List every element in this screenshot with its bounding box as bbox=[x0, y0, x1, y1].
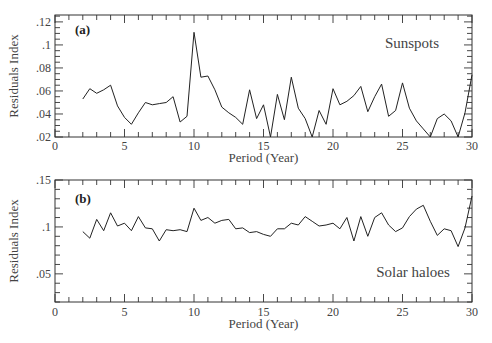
panel-a-xlabel: Period (Year) bbox=[229, 150, 299, 165]
panel-b-frame bbox=[55, 180, 472, 302]
panel-a-ytick-label: .02 bbox=[36, 130, 51, 144]
panel-a-ticks bbox=[55, 15, 472, 137]
panel-a-xtick-label: 5 bbox=[122, 139, 128, 153]
panel-b-xtick-label: 10 bbox=[188, 305, 200, 319]
figure: 051015202530.02.04.06.08.1.12 (a) Sunspo… bbox=[0, 0, 492, 343]
panel-b-ytick-label: .1 bbox=[42, 220, 51, 234]
panel-a-series-label: Sunspots bbox=[385, 35, 439, 51]
panel-a-sunspots: 051015202530.02.04.06.08.1.12 (a) Sunspo… bbox=[6, 15, 478, 165]
panel-b-xtick-label: 0 bbox=[52, 305, 58, 319]
panel-a-ytick-label: .08 bbox=[36, 61, 51, 75]
panel-b-xtick-label: 30 bbox=[466, 305, 478, 319]
panel-b-ytick-label: .15 bbox=[36, 173, 51, 187]
panel-a-xtick-label: 10 bbox=[188, 139, 200, 153]
panel-b-ytick-label: .05 bbox=[36, 267, 51, 281]
panel-b-xtick-label: 5 bbox=[122, 305, 128, 319]
panel-b-xlabel: Period (Year) bbox=[229, 316, 299, 331]
panel-b-ticks bbox=[55, 180, 472, 302]
panel-a-xtick-label: 25 bbox=[397, 139, 409, 153]
panel-b-solar-haloes-line bbox=[83, 196, 472, 247]
panel-b-series-label: Solar haloes bbox=[376, 264, 450, 280]
panel-a-xtick-label: 30 bbox=[466, 139, 478, 153]
panel-a-xtick-label: 20 bbox=[327, 139, 339, 153]
panel-a-xtick-label: 0 bbox=[52, 139, 58, 153]
panel-a-ylabel: Residuals Index bbox=[6, 34, 21, 118]
panel-b-xtick-label: 20 bbox=[327, 305, 339, 319]
panel-a-ytick-label: .1 bbox=[42, 38, 51, 52]
panel-a-ytick-label: .12 bbox=[36, 15, 51, 29]
panel-a-tag: (a) bbox=[75, 22, 90, 37]
panel-b-tick-labels: 051015202530.05.1.15 bbox=[36, 173, 478, 319]
panel-b-xtick-label: 25 bbox=[397, 305, 409, 319]
panel-b-solar-haloes: 051015202530.05.1.15 (b) Solar haloes Pe… bbox=[6, 173, 478, 331]
panel-a-ytick-label: .06 bbox=[36, 84, 51, 98]
panel-a-ytick-label: .04 bbox=[36, 107, 51, 121]
panel-b-tag: (b) bbox=[75, 191, 91, 206]
panel-a-frame bbox=[55, 15, 472, 137]
panel-b-ylabel: Residuals Index bbox=[6, 199, 21, 283]
